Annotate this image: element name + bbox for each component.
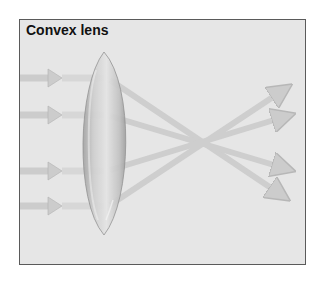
lens-diagram-canvas [0,0,325,284]
refracted-ray-1 [110,80,280,194]
refracted-ray-4 [110,91,282,205]
refracted-rays [110,80,284,205]
diagram-title: Convex lens [26,22,108,38]
